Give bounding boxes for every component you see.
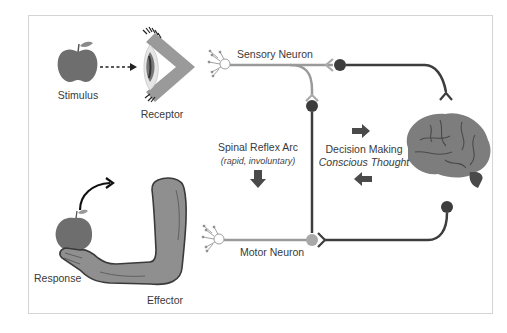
brain-icon	[407, 113, 491, 188]
synapse-node-dark	[306, 100, 318, 112]
dashed-arrow-icon	[100, 63, 137, 71]
eye-receptor-icon	[143, 27, 195, 102]
stimulus-label: Stimulus	[58, 89, 98, 101]
arrow-right-icon	[352, 124, 370, 138]
response-label: Response	[34, 272, 81, 284]
decision-making-label: Decision Making	[325, 143, 402, 155]
synapse-fork	[440, 93, 452, 100]
sensory-neuron-label: Sensory Neuron	[237, 48, 313, 60]
sensory-dendrite-icon	[208, 50, 230, 77]
stimulus-apple-icon	[58, 42, 98, 82]
descending-neuron	[325, 213, 447, 240]
spinal-reflex-subtitle: (rapid, involuntary)	[221, 155, 296, 167]
arrow-left-icon	[354, 172, 372, 186]
ascending-neuron	[346, 65, 446, 92]
arm-effector-icon	[56, 178, 186, 284]
synapse-node-dark	[441, 201, 453, 213]
synapse-chevron	[318, 233, 325, 247]
synapse-node-light	[306, 234, 318, 246]
synapse-node-dark	[334, 59, 346, 71]
receptor-label: Receptor	[141, 108, 184, 120]
motor-dendrite-icon	[202, 225, 224, 252]
arrow-down-icon	[250, 170, 266, 188]
curved-arrow-icon	[80, 178, 113, 210]
effector-label: Effector	[147, 294, 183, 306]
spinal-reflex-arc-label: Spinal Reflex Arc	[218, 141, 298, 153]
sensory-branch	[290, 65, 312, 96]
conscious-thought-label: Conscious Thought	[319, 156, 409, 168]
motor-neuron-label: Motor Neuron	[240, 246, 304, 258]
